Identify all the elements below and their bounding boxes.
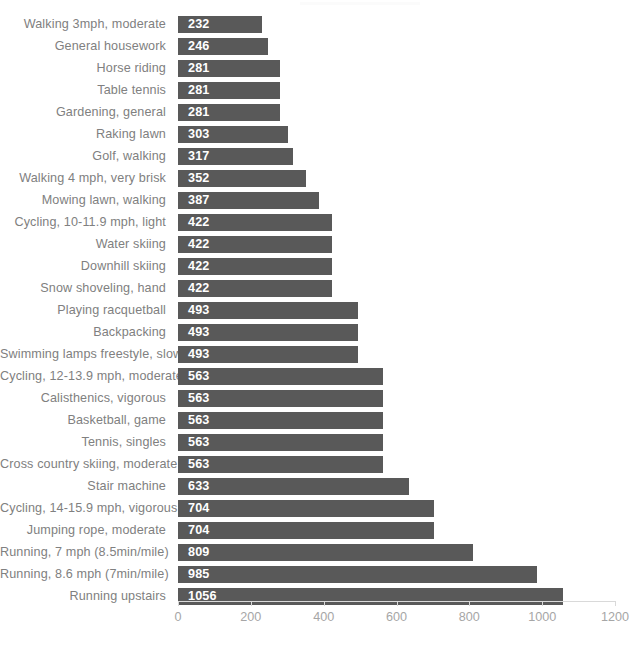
- bar-track: 422: [178, 278, 635, 300]
- bar: [178, 566, 537, 583]
- bar-chart: Walking 3mph, moderate232General housewo…: [0, 0, 635, 658]
- category-label: Raking lawn: [0, 124, 172, 146]
- x-axis-tick: [251, 601, 252, 606]
- x-axis-tick: [324, 601, 325, 606]
- chart-row: Walking 3mph, moderate232: [0, 14, 635, 36]
- bar-value-label: 352: [188, 170, 209, 187]
- category-label: Walking 4 mph, very brisk: [0, 168, 172, 190]
- bar-value-label: 281: [188, 82, 209, 99]
- chart-row: Playing racquetball493: [0, 300, 635, 322]
- category-label: Cycling, 10-11.9 mph, light: [0, 212, 172, 234]
- bar-value-label: 493: [188, 302, 209, 319]
- bar-value-label: 422: [188, 280, 209, 297]
- bar-track: 317: [178, 146, 635, 168]
- chart-row: Running, 7 mph (8.5min/mile)809: [0, 542, 635, 564]
- bar-value-label: 633: [188, 478, 209, 495]
- bar-value-label: 1056: [188, 588, 217, 605]
- bar-value-label: 246: [188, 38, 209, 55]
- chart-row: Calisthenics, vigorous563: [0, 388, 635, 410]
- bar-value-label: 563: [188, 412, 209, 429]
- chart-row: Horse riding281: [0, 58, 635, 80]
- category-label: Tennis, singles: [0, 432, 172, 454]
- bar-track: 633: [178, 476, 635, 498]
- chart-row: Water skiing422: [0, 234, 635, 256]
- bar-track: 422: [178, 256, 635, 278]
- x-axis-tick-label: 1000: [528, 610, 556, 624]
- chart-row: Cycling, 14-15.9 mph, vigorous704: [0, 498, 635, 520]
- x-axis-tick: [178, 601, 179, 606]
- plot-area: Walking 3mph, moderate232General housewo…: [0, 14, 635, 600]
- bar-track: 563: [178, 410, 635, 432]
- bar-value-label: 281: [188, 104, 209, 121]
- category-label: Playing racquetball: [0, 300, 172, 322]
- chart-row: Golf, walking317: [0, 146, 635, 168]
- bar-value-label: 232: [188, 16, 209, 33]
- bar-value-label: 809: [188, 544, 209, 561]
- bar-track: 493: [178, 300, 635, 322]
- bar-track: 563: [178, 432, 635, 454]
- bar-track: 704: [178, 498, 635, 520]
- category-label: General housework: [0, 36, 172, 58]
- category-label: Snow shoveling, hand: [0, 278, 172, 300]
- bar-value-label: 563: [188, 368, 209, 385]
- bar-track: 704: [178, 520, 635, 542]
- x-axis-tick: [542, 601, 543, 606]
- x-axis-tick: [469, 601, 470, 606]
- chart-row: Gardening, general281: [0, 102, 635, 124]
- bar: [178, 478, 409, 495]
- bar-track: 1056: [178, 586, 635, 608]
- x-axis-tick: [397, 601, 398, 606]
- chart-row: Swimming lamps freestyle, slow493: [0, 344, 635, 366]
- category-label: Golf, walking: [0, 146, 172, 168]
- category-label: Cycling, 12-13.9 mph, moderate: [0, 366, 172, 388]
- bar-track: 281: [178, 80, 635, 102]
- category-label: Gardening, general: [0, 102, 172, 124]
- bar-track: 232: [178, 14, 635, 36]
- bar-track: 809: [178, 542, 635, 564]
- chart-row: Stair machine633: [0, 476, 635, 498]
- bar: [178, 500, 434, 517]
- bar-value-label: 422: [188, 236, 209, 253]
- bar-value-label: 704: [188, 500, 209, 517]
- chart-row: Mowing lawn, walking387: [0, 190, 635, 212]
- bar-value-label: 422: [188, 258, 209, 275]
- bar-track: 281: [178, 58, 635, 80]
- bar-value-label: 493: [188, 346, 209, 363]
- bar-value-label: 985: [188, 566, 209, 583]
- bar-value-label: 563: [188, 456, 209, 473]
- x-axis-tick-label: 400: [313, 610, 334, 624]
- bar-track: 246: [178, 36, 635, 58]
- bar-value-label: 563: [188, 390, 209, 407]
- bar-track: 303: [178, 124, 635, 146]
- bar: [178, 544, 473, 561]
- category-label: Running, 7 mph (8.5min/mile): [0, 542, 172, 564]
- chart-row: Walking 4 mph, very brisk352: [0, 168, 635, 190]
- category-label: Horse riding: [0, 58, 172, 80]
- category-label: Basketball, game: [0, 410, 172, 432]
- category-label: Cross country skiing, moderate: [0, 454, 172, 476]
- category-label: Running, 8.6 mph (7min/mile): [0, 564, 172, 586]
- chart-row: Basketball, game563: [0, 410, 635, 432]
- x-axis-tick-label: 0: [174, 610, 181, 624]
- bar-value-label: 281: [188, 60, 209, 77]
- bar-value-label: 303: [188, 126, 209, 143]
- category-label: Calisthenics, vigorous: [0, 388, 172, 410]
- bar: [178, 522, 434, 539]
- bar-track: 563: [178, 366, 635, 388]
- chart-row: Backpacking493: [0, 322, 635, 344]
- category-label: Backpacking: [0, 322, 172, 344]
- bar-track: 422: [178, 212, 635, 234]
- category-label: Stair machine: [0, 476, 172, 498]
- category-label: Walking 3mph, moderate: [0, 14, 172, 36]
- chart-row: Tennis, singles563: [0, 432, 635, 454]
- category-label: Mowing lawn, walking: [0, 190, 172, 212]
- category-label: Running upstairs: [0, 586, 172, 608]
- chart-row: Snow shoveling, hand422: [0, 278, 635, 300]
- bar-track: 563: [178, 454, 635, 476]
- category-label: Jumping rope, moderate: [0, 520, 172, 542]
- chart-row: Cycling, 10-11.9 mph, light422: [0, 212, 635, 234]
- chart-row: Cycling, 12-13.9 mph, moderate563: [0, 366, 635, 388]
- bar-track: 352: [178, 168, 635, 190]
- x-axis-tick-label: 1200: [601, 610, 629, 624]
- bar-track: 563: [178, 388, 635, 410]
